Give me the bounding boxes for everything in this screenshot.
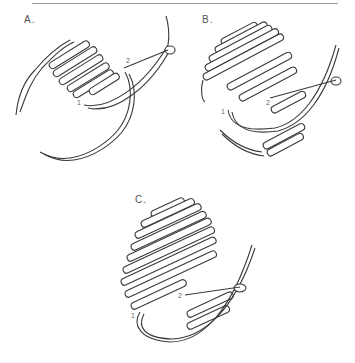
- panel-c-drawing: [120, 197, 255, 342]
- stitch-illustration: [0, 0, 355, 363]
- panel-b-drawing: [202, 21, 341, 157]
- panel-a-drawing: [16, 16, 175, 160]
